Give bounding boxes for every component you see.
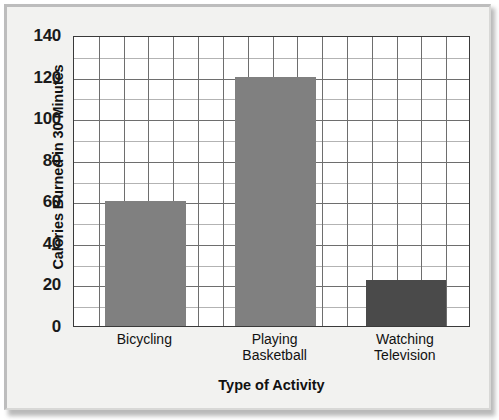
y-tick-label-20: 20 (9, 276, 61, 293)
gridline-x-11 (347, 37, 348, 326)
y-tick-140: 140 (9, 27, 61, 44)
gridline-y-90 (74, 141, 469, 142)
gridline-x-9 (297, 37, 298, 326)
gridline-y-10 (74, 307, 469, 308)
y-tick-label-0: 0 (9, 318, 61, 335)
gridline-y-120 (74, 79, 469, 80)
y-tick-label-40: 40 (9, 235, 61, 252)
y-tick-20: 20 (9, 276, 61, 293)
gridline-y-100 (74, 120, 469, 121)
plot-area (73, 36, 470, 327)
gridline-x-13 (397, 37, 398, 326)
gridline-x-1 (99, 37, 100, 326)
gridline-x-14 (421, 37, 422, 326)
y-tick-label-80: 80 (9, 152, 61, 169)
x-tick-label-line: Watching (325, 332, 485, 348)
vertical-gridlines (74, 37, 469, 326)
gridline-x-10 (322, 37, 323, 326)
gridline-x-6 (223, 37, 224, 326)
gridline-y-110 (74, 99, 469, 100)
gridline-y-50 (74, 224, 469, 225)
gridline-x-12 (372, 37, 373, 326)
x-tick-label-line: Television (325, 348, 485, 364)
y-tick-label-140: 140 (9, 27, 61, 44)
gridline-x-4 (173, 37, 174, 326)
gridline-y-70 (74, 183, 469, 184)
y-tick-100: 100 (9, 110, 61, 127)
gridline-y-30 (74, 266, 469, 267)
y-tick-label-60: 60 (9, 193, 61, 210)
bar-watching-television (366, 280, 447, 326)
gridline-y-40 (74, 245, 469, 246)
gridline-y-20 (74, 286, 469, 287)
gridline-y-60 (74, 203, 469, 204)
y-tick-80: 80 (9, 152, 61, 169)
bar-bicycling (105, 201, 186, 326)
bar-playing-basketball (235, 77, 316, 326)
y-tick-0: 0 (9, 318, 61, 335)
gridline-x-7 (248, 37, 249, 326)
gridline-y-130 (74, 58, 469, 59)
gridline-x-5 (198, 37, 199, 326)
gridline-y-80 (74, 162, 469, 163)
y-tick-40: 40 (9, 235, 61, 252)
y-tick-label-100: 100 (9, 110, 61, 127)
gridline-x-15 (446, 37, 447, 326)
gridline-x-8 (273, 37, 274, 326)
y-tick-120: 120 (9, 69, 61, 86)
x-axis-title: Type of Activity (73, 377, 470, 393)
x-tick-label-watching-television: WatchingTelevision (325, 332, 485, 363)
figure-frame: Calories Burned in 30 Minutes 0204060801… (0, 0, 499, 420)
y-tick-60: 60 (9, 193, 61, 210)
horizontal-gridlines (74, 37, 469, 326)
chart-canvas: Calories Burned in 30 Minutes 0204060801… (9, 9, 488, 407)
y-tick-label-120: 120 (9, 69, 61, 86)
bars-layer (74, 37, 469, 326)
gridline-x-3 (148, 37, 149, 326)
gridline-x-2 (124, 37, 125, 326)
y-axis-tick-labels: 020406080100120140 (9, 36, 67, 327)
